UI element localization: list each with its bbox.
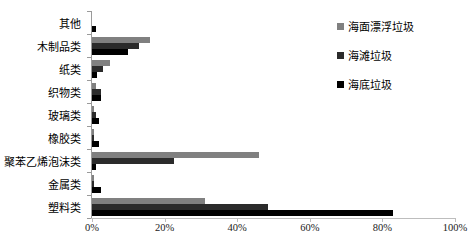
y-axis-tick (87, 11, 91, 12)
bar (92, 72, 97, 78)
bar-group (92, 103, 455, 126)
bar-group (92, 126, 455, 149)
x-axis-tick-label: 100% (443, 222, 468, 233)
y-axis-label: 纸类 (0, 57, 86, 80)
bar (92, 118, 99, 124)
legend-item[interactable]: 海滩垃圾 (337, 47, 414, 63)
y-axis-tick (87, 34, 91, 35)
y-axis-tick (87, 103, 91, 104)
y-axis-tick (87, 172, 91, 173)
y-axis-label: 聚苯乙烯泡沫类 (0, 149, 86, 172)
x-axis-tick-label: 40% (228, 222, 247, 233)
y-axis-label: 塑料类 (0, 195, 86, 218)
bar (92, 95, 101, 101)
horizontal-bar-chart: 其他木制品类纸类织物类玻璃类橡胶类聚苯乙烯泡沫类金属类塑料类 0%20%40%6… (0, 0, 472, 249)
legend-label: 海滩垃圾 (348, 47, 392, 63)
legend-swatch-icon (337, 23, 344, 30)
legend-item[interactable]: 海面漂浮垃圾 (337, 18, 414, 34)
bar (92, 26, 96, 32)
bar (92, 141, 99, 147)
legend-item[interactable]: 海底垃圾 (337, 76, 414, 92)
y-axis-tick (87, 126, 91, 127)
x-axis-tick-labels: 0%20%40%60%80%100% (91, 222, 455, 238)
bar (92, 49, 128, 55)
bar-group (92, 195, 455, 218)
x-axis-tick-label: 20% (155, 222, 174, 233)
x-axis-tick-label: 60% (300, 222, 319, 233)
legend-label: 海面漂浮垃圾 (348, 18, 414, 34)
bar (92, 187, 101, 193)
legend-label: 海底垃圾 (348, 76, 392, 92)
y-axis-category-labels: 其他木制品类纸类织物类玻璃类橡胶类聚苯乙烯泡沫类金属类塑料类 (0, 11, 86, 218)
bar (92, 210, 393, 216)
y-axis-label: 橡胶类 (0, 126, 86, 149)
y-axis-label: 木制品类 (0, 34, 86, 57)
y-axis-label: 玻璃类 (0, 103, 86, 126)
x-axis-line (91, 218, 455, 219)
legend-swatch-icon (337, 52, 344, 59)
chart-legend: 海面漂浮垃圾海滩垃圾海底垃圾 (337, 18, 414, 92)
y-axis-tick (87, 218, 91, 219)
x-axis-tick-label: 80% (373, 222, 392, 233)
bar (92, 158, 174, 164)
bar-group (92, 172, 455, 195)
y-axis-tick (87, 57, 91, 58)
bar (92, 164, 96, 170)
y-axis-label: 金属类 (0, 172, 86, 195)
y-axis-label: 其他 (0, 11, 86, 34)
bar-group (92, 149, 455, 172)
y-axis-label: 织物类 (0, 80, 86, 103)
legend-swatch-icon (337, 81, 344, 88)
y-axis-tick (87, 195, 91, 196)
x-axis-tick-label: 0% (85, 222, 99, 233)
y-axis-tick (87, 80, 91, 81)
y-axis-tick (87, 149, 91, 150)
